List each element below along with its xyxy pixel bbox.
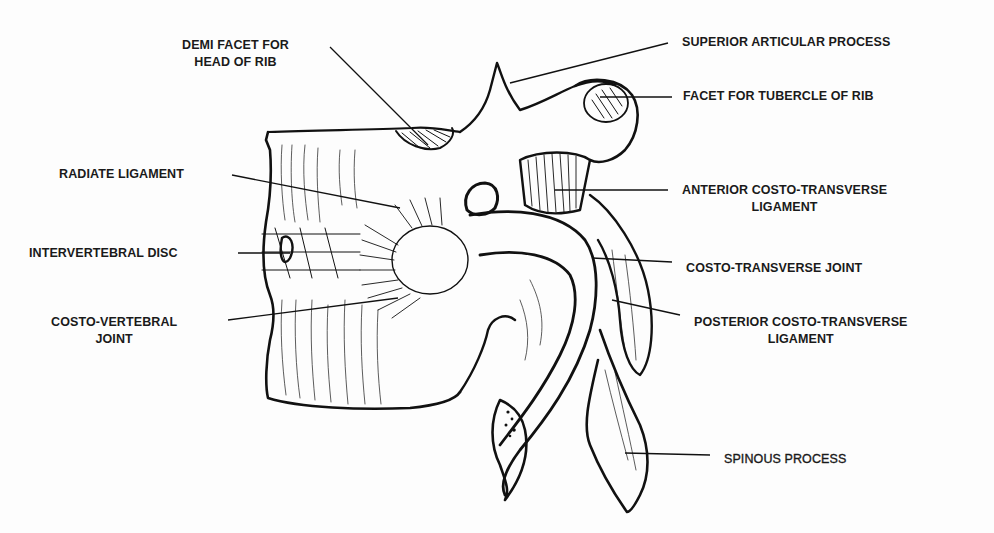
label-radiate-ligament: RADIATE LIGAMENT: [59, 166, 184, 183]
intervertebral-foramen: [466, 183, 498, 215]
label-line: LIGAMENT: [682, 199, 887, 216]
label-line: POSTERIOR COSTO-TRANSVERSE: [694, 314, 908, 331]
tubercle-facet: [584, 84, 628, 122]
leader-costo-vertebral-joint: [228, 298, 398, 320]
label-line: LIGAMENT: [694, 331, 908, 348]
leader-spinous-process: [625, 453, 710, 455]
costo-vertebral-joint: [392, 226, 468, 294]
label-posterior-ct-ligament: POSTERIOR COSTO-TRANSVERSE LIGAMENT: [694, 314, 908, 348]
superior-articular-process: [460, 63, 615, 132]
leader-costo-transverse-joint: [592, 258, 672, 262]
label-line: RADIATE LIGAMENT: [59, 166, 184, 183]
label-demi-facet: DEMI FACET FOR HEAD OF RIB: [182, 37, 289, 71]
leader-superior-articular: [510, 43, 668, 83]
label-costo-transverse-joint: COSTO-TRANSVERSE JOINT: [686, 260, 862, 277]
label-line: COSTO-TRANSVERSE JOINT: [686, 260, 862, 277]
label-line: FACET FOR TUBERCLE OF RIB: [683, 88, 874, 105]
leader-posterior-ct-ligament: [612, 300, 680, 315]
label-line: COSTO-VERTEBRAL: [51, 314, 177, 331]
anterior-ct-ligament: [520, 153, 590, 214]
label-line: SUPERIOR ARTICULAR PROCESS: [682, 34, 890, 51]
transverse-process: [575, 80, 638, 162]
label-facet-tubercle: FACET FOR TUBERCLE OF RIB: [683, 88, 874, 105]
label-anterior-ct-ligament: ANTERIOR COSTO-TRANSVERSE LIGAMENT: [682, 182, 887, 216]
label-line: INTERVERTEBRAL DISC: [29, 245, 178, 262]
spinous-process: [587, 330, 648, 512]
label-intervertebral-disc: INTERVERTEBRAL DISC: [29, 245, 178, 262]
anatomy-figure: DEMI FACET FOR HEAD OF RIB SUPERIOR ARTI…: [0, 0, 994, 533]
label-line: ANTERIOR COSTO-TRANSVERSE: [682, 182, 887, 199]
radiate-ligament-fibers: [360, 198, 442, 318]
label-line: DEMI FACET FOR: [182, 37, 289, 54]
demi-facet: [396, 128, 453, 149]
label-line: HEAD OF RIB: [182, 54, 289, 71]
label-superior-articular-process: SUPERIOR ARTICULAR PROCESS: [682, 34, 890, 51]
label-spinous-process: SPINOUS PROCESS: [724, 451, 846, 468]
leader-radiate-ligament: [232, 175, 400, 208]
label-costo-vertebral-joint: COSTO-VERTEBRAL JOINT: [51, 314, 177, 348]
label-line: SPINOUS PROCESS: [724, 451, 846, 468]
label-line: JOINT: [51, 331, 177, 348]
